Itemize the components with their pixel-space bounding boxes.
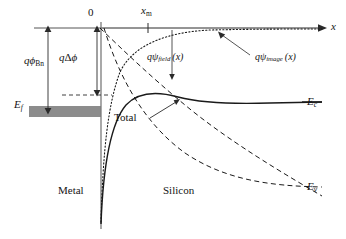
- conduction-band-subscript: c: [314, 100, 317, 109]
- silicon-region-label: Silicon: [163, 185, 194, 196]
- image-arg: (x): [285, 51, 296, 62]
- field-arg: (x): [172, 51, 183, 62]
- valence-band-base: E: [307, 180, 314, 192]
- image-potential-label: qψimage(x): [255, 52, 296, 63]
- barrier-height-sub: Bn: [35, 59, 44, 68]
- fermi-level-label: Ef: [14, 99, 23, 111]
- image-label-arrowhead: [218, 32, 225, 39]
- barrier-lowering-label: qΔϕ: [59, 52, 77, 63]
- total-label-leader: [150, 102, 176, 118]
- image-subscript: image: [266, 55, 283, 62]
- xm-label: xm: [141, 5, 152, 17]
- total-curve-label: Total: [114, 112, 136, 123]
- origin-label: 0: [88, 7, 94, 18]
- conduction-band-label: Ec: [307, 96, 317, 108]
- figure-canvas: 0 xm x qϕBn qΔϕ Ef qψfield(x) qψimage(x)…: [0, 0, 346, 239]
- barrier-height-arrow-up: [45, 26, 52, 33]
- barrier-lowering-arrow-down: [94, 90, 101, 97]
- fermi-level-subscript: f: [21, 103, 23, 112]
- image-label-leader: [222, 35, 250, 55]
- metal-fermi-sea: [29, 106, 101, 117]
- valence-band-subscript: v: [314, 185, 317, 194]
- valence-band-label: Ev: [307, 181, 317, 193]
- conduction-band-base: E: [307, 95, 314, 107]
- barrier-lowering-arrow-up: [94, 26, 101, 33]
- field-label-arrowhead: [169, 74, 175, 80]
- total-label-arrowhead: [174, 99, 180, 105]
- barrier-lowering-delta: Δ: [65, 51, 72, 63]
- barrier-lowering-phi: ϕ: [72, 51, 78, 63]
- barrier-height-label: qϕBn: [24, 55, 44, 67]
- metal-region-label: Metal: [58, 185, 84, 196]
- field-potential-label: qψfield(x): [147, 52, 183, 63]
- fermi-level-base: E: [14, 98, 21, 110]
- band-diagram-svg: [0, 0, 346, 239]
- xm-subscript: m: [146, 9, 152, 18]
- x-axis-label: x: [331, 21, 336, 32]
- field-subscript: field: [158, 55, 170, 62]
- x-axis-arrowhead: [318, 24, 327, 31]
